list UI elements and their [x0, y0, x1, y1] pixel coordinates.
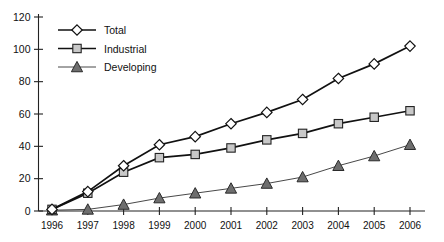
marker-diamond: [333, 73, 343, 83]
legend-label: Industrial: [104, 43, 147, 55]
y-tick-label: 100: [13, 43, 31, 55]
x-tick-label: 1999: [148, 220, 171, 231]
legend-label: Total: [104, 24, 126, 36]
marker-triangle: [297, 171, 308, 181]
legend-item-industrial[interactable]: Industrial: [58, 43, 147, 55]
y-tick-label: 40: [19, 140, 31, 152]
marker-triangle: [404, 139, 415, 149]
marker-diamond: [369, 59, 379, 69]
marker-diamond: [226, 119, 236, 129]
x-tick-label: 1996: [41, 220, 64, 231]
marker-square: [406, 107, 414, 115]
chart-legend: TotalIndustrialDeveloping: [58, 24, 157, 73]
marker-square: [370, 113, 378, 121]
series-layer: [46, 41, 415, 215]
marker-square: [263, 136, 271, 144]
marker-square: [298, 129, 306, 137]
marker-square: [191, 150, 199, 158]
marker-triangle: [369, 150, 380, 160]
x-tick-label: 2006: [399, 220, 422, 231]
line-chart: 020406080100120 199619971998199920002001…: [0, 0, 444, 242]
marker-square: [73, 44, 81, 52]
marker-diamond: [405, 41, 415, 51]
marker-square: [155, 153, 163, 161]
x-tick-label: 2001: [220, 220, 243, 231]
y-tick-label: 0: [25, 205, 31, 217]
marker-square: [334, 120, 342, 128]
x-tick-label: 1997: [77, 220, 100, 231]
y-tick-label: 80: [19, 75, 31, 87]
legend-label: Developing: [104, 61, 157, 73]
y-tick-label: 60: [19, 108, 31, 120]
y-tick-label: 120: [13, 11, 31, 23]
legend-item-developing[interactable]: Developing: [58, 61, 157, 73]
x-tick-label: 2002: [256, 220, 279, 231]
marker-diamond: [297, 94, 307, 104]
series-line: [52, 145, 410, 210]
marker-diamond: [262, 107, 272, 117]
marker-square: [227, 144, 235, 152]
x-axis: 1996199719981999200020012002200320042005…: [39, 207, 426, 231]
x-tick-label: 2000: [184, 220, 207, 231]
marker-diamond: [154, 140, 164, 150]
x-tick-label: 2004: [327, 220, 350, 231]
chart-canvas: 020406080100120 199619971998199920002001…: [0, 0, 444, 242]
y-tick-label-group: 020406080100120: [13, 11, 31, 217]
y-axis: 020406080100120: [13, 11, 43, 217]
x-tick-label: 2003: [291, 220, 314, 231]
x-tick-label: 2005: [363, 220, 386, 231]
marker-diamond: [72, 25, 82, 35]
y-tick-label: 20: [19, 172, 31, 184]
legend-item-total[interactable]: Total: [58, 24, 126, 36]
marker-diamond: [190, 131, 200, 141]
x-tick-label: 1998: [112, 220, 135, 231]
marker-triangle: [333, 160, 344, 170]
x-tick-label-group: 1996199719981999200020012002200320042005…: [41, 220, 422, 231]
